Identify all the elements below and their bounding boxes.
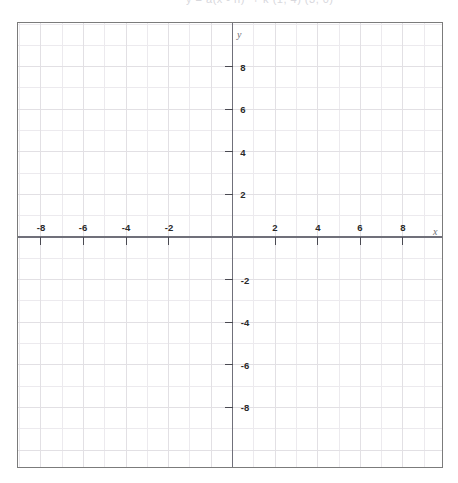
x-tick-label: 8 [400, 222, 405, 233]
y-tick-label: -2 [241, 275, 249, 286]
y-tick-label: -4 [241, 317, 249, 328]
x-tick-label: 2 [272, 222, 277, 233]
y-tick-label: 8 [240, 62, 245, 73]
y-axis-label: y [237, 29, 241, 40]
x-tick-label: 4 [315, 222, 320, 233]
x-axis-ticks [41, 237, 403, 245]
y-tick-label: -6 [241, 360, 249, 371]
minor-gridlines [18, 23, 442, 467]
x-tick-label: -6 [79, 222, 87, 233]
y-tick-label: -8 [241, 402, 249, 413]
y-tick-label: 4 [240, 147, 245, 158]
coordinate-plane: -8 -6 -4 -2 2 4 6 8 8 6 4 2 -2 -4 -6 -8 … [17, 22, 443, 468]
y-tick-label: 2 [240, 189, 245, 200]
axis-lines [18, 23, 442, 467]
y-tick-label: 6 [240, 104, 245, 115]
graph-canvas: y = a(x - h)² + k (1, 4) (3, 0) [0, 0, 458, 483]
cut-off-header-text: y = a(x - h)² + k (1, 4) (3, 0) [186, 0, 448, 8]
grid-and-axes [18, 23, 442, 467]
x-axis-label: x [433, 226, 437, 237]
x-tick-label: -4 [122, 222, 130, 233]
x-tick-label: 6 [357, 222, 362, 233]
x-tick-label: -8 [37, 222, 45, 233]
major-gridlines [18, 23, 442, 467]
x-tick-label: -2 [165, 222, 173, 233]
